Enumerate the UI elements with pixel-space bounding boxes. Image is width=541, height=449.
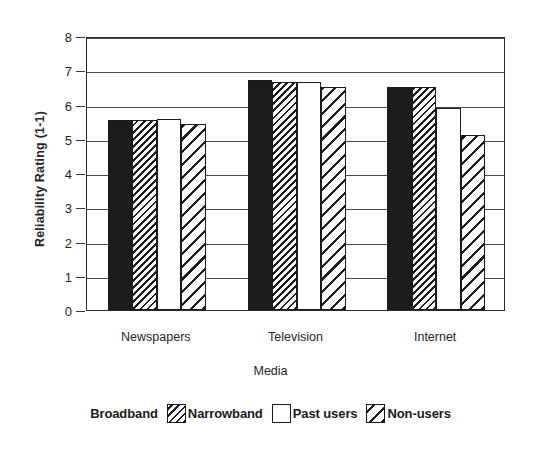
legend-label: Non-users — [387, 406, 450, 421]
y-tick-mark — [76, 174, 85, 175]
y-tick-mark — [76, 106, 85, 107]
bar — [436, 108, 461, 310]
y-tick-label: 0 — [50, 304, 72, 319]
y-tick-label: 3 — [50, 201, 72, 216]
legend-entry: Narrowband — [167, 404, 263, 423]
bar — [248, 80, 273, 310]
legend-entry: Past users — [272, 404, 358, 423]
empty-white-swatch-icon — [272, 404, 291, 423]
legend-entry: Broadband — [90, 404, 158, 423]
y-tick-label: 7 — [50, 64, 72, 79]
y-tick-mark — [76, 71, 85, 72]
y-tick-label: 5 — [50, 132, 72, 147]
bar-series-layer — [87, 38, 504, 310]
legend-entry: Non-users — [366, 404, 450, 423]
chart-legend: BroadbandNarrowbandPast usersNon-users — [0, 404, 541, 423]
bar — [272, 82, 297, 310]
bar — [461, 135, 486, 310]
bar — [297, 82, 322, 310]
plot-area — [86, 37, 505, 311]
x-tick-label: Newspapers — [76, 330, 236, 344]
y-tick-mark — [76, 243, 85, 244]
bar — [157, 119, 182, 310]
wide-hatch-swatch-icon — [366, 404, 385, 423]
y-tick-label: 2 — [50, 235, 72, 250]
x-axis-title: Media — [0, 364, 541, 378]
y-tick-label: 1 — [50, 269, 72, 284]
bar — [387, 87, 412, 310]
bar — [181, 124, 206, 310]
dense-hatch-swatch-icon — [167, 404, 186, 423]
y-tick-mark — [76, 37, 85, 38]
y-tick-mark — [76, 277, 85, 278]
bar — [321, 87, 346, 310]
y-tick-mark — [76, 311, 85, 312]
y-tick-mark — [76, 140, 85, 141]
y-tick-mark — [76, 208, 85, 209]
legend-label: Broadband — [90, 406, 158, 421]
bar — [108, 120, 133, 310]
x-tick-label: Internet — [355, 330, 515, 344]
y-tick-label: 4 — [50, 167, 72, 182]
x-tick-label: Television — [216, 330, 376, 344]
y-tick-label: 8 — [50, 30, 72, 45]
y-tick-label: 6 — [50, 98, 72, 113]
legend-label: Narrowband — [188, 406, 263, 421]
legend-label: Past users — [293, 406, 358, 421]
bar — [132, 120, 157, 310]
bar-chart-figure: Reliability Rating (1-1) 012345678 Newsp… — [0, 0, 541, 449]
bar — [412, 87, 437, 310]
